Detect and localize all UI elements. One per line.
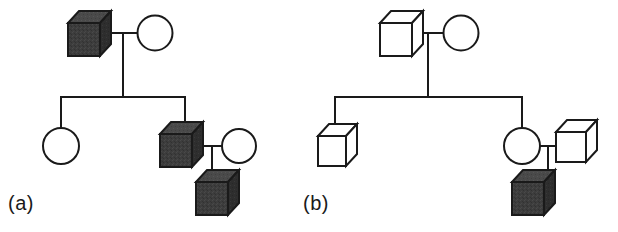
individual-b-I-1-unaffected-male-cube <box>380 11 423 56</box>
individual-a-II-1-unaffected-female-circle <box>43 128 79 164</box>
panel-a-label: (a) <box>8 192 34 215</box>
panel-b <box>318 11 597 215</box>
individual-b-II-2-unaffected-female-circle <box>504 128 540 164</box>
individual-a-I-2-unaffected-female-circle <box>138 16 173 51</box>
pedigree-figure: (a) (b) <box>0 0 618 232</box>
b-sibship-bar-gen2 <box>335 97 522 128</box>
individual-b-II-1-unaffected-male-cube <box>318 124 357 166</box>
individual-a-III-1-affected-male-cube <box>196 170 239 215</box>
individual-a-II-2-affected-male-cube <box>160 122 203 167</box>
individual-a-II-3-unaffected-female-circle <box>222 129 256 163</box>
panel-a <box>43 11 256 215</box>
individual-a-I-1-affected-male-cube <box>68 11 111 56</box>
a-mating-line-gen1 <box>111 33 138 97</box>
b-mating-line-gen2 <box>540 146 556 172</box>
a-sibship-bar-gen2 <box>61 97 185 128</box>
panel-b-label: (b) <box>303 192 329 215</box>
a-mating-line-gen2 <box>203 146 222 172</box>
individual-b-II-3-unaffected-male-cube <box>556 120 597 162</box>
individual-b-I-2-unaffected-female-circle <box>444 16 479 51</box>
individual-b-III-1-affected-male-cube <box>512 170 555 215</box>
